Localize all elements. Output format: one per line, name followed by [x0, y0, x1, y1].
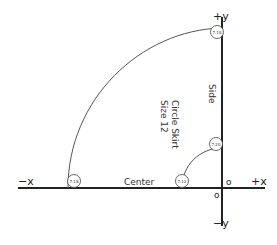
marker-inner-left: 7.12 [176, 175, 189, 188]
marker-inner-top-value: 7.20 [212, 142, 221, 147]
origin-label-upper: o [226, 177, 232, 187]
marker-top: 7.18 [211, 26, 224, 39]
outer-hem-arc [68, 28, 222, 188]
marker-outer-left-value: 7.18 [70, 179, 79, 184]
marker-top-value: 7.18 [213, 30, 222, 35]
axis-label-pos-x: +x [251, 175, 267, 188]
axis-label-pos-y: +y [213, 10, 229, 23]
marker-outer-left: 7.18 [68, 175, 81, 188]
axis-label-neg-y: −y [213, 217, 229, 230]
origin-label-lower: o [214, 190, 220, 200]
marker-inner-top: 7.20 [210, 138, 223, 151]
title-line2: Size 12 [159, 100, 169, 133]
circle-skirt-diagram: 7.18 7.20 7.18 7.12 +y −y +x −x o o Cent… [0, 0, 277, 245]
side-label: Side [207, 84, 217, 104]
axis-label-neg-x: −x [18, 175, 34, 188]
marker-inner-left-value: 7.12 [178, 179, 187, 184]
title-line1: Circle Skirt [170, 100, 180, 149]
center-label: Center [124, 177, 155, 187]
